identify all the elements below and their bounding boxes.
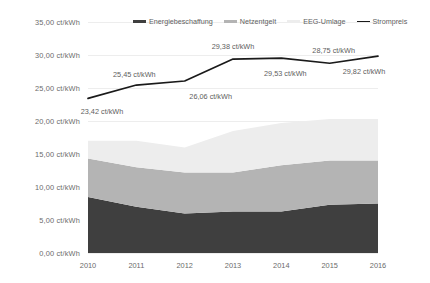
legend-swatch-icon [287,20,300,23]
x-axis-tick-label: 2010 [80,261,96,270]
x-axis-tick-label: 2014 [273,261,289,270]
chart-legend: EnergiebeschaffungNetzentgeltEEG-UmlageS… [133,17,407,26]
legend-label: Strompreis [373,17,408,26]
legend-swatch-icon [133,20,146,23]
x-axis-tick-label: 2016 [370,261,386,270]
legend-item-netzentgelt[interactable]: Netzentgelt [224,17,276,26]
x-axis-tick-label: 2012 [176,261,192,270]
x-axis-tick-label: 2015 [321,261,337,270]
x-axis-tick-label: 2011 [128,261,144,270]
legend-label: Netzentgelt [240,17,276,26]
legend-label: Energiebeschaffung [149,17,213,26]
legend-item-energiebeschaffung[interactable]: Energiebeschaffung [133,17,213,26]
chart-root: 35,00 ct/kWh30,00 ct/kWh25,00 ct/kWh20,0… [0,0,430,283]
legend-swatch-icon [224,20,237,23]
x-axis: 2010201120122013201420152016 [0,0,430,283]
x-axis-tick-label: 2013 [225,261,241,270]
legend-item-eeg-umlage[interactable]: EEG-Umlage [287,17,345,26]
legend-label: EEG-Umlage [303,17,345,26]
legend-swatch-icon [357,21,370,23]
legend-item-strompreis[interactable]: Strompreis [357,17,408,26]
